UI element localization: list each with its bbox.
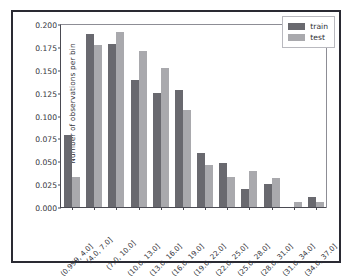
bar-train <box>86 34 94 207</box>
y-tick-label: 0.150 <box>35 66 57 75</box>
x-tick-mark <box>161 207 162 210</box>
y-tick-label: 0.025 <box>35 181 57 190</box>
bar-test <box>116 32 124 207</box>
legend-swatch-test <box>288 34 305 41</box>
bar-test <box>249 171 257 207</box>
bar-train <box>241 189 249 207</box>
legend-label: test <box>310 32 325 43</box>
x-tick-mark <box>72 207 73 210</box>
legend-item-test[interactable]: test <box>288 32 328 43</box>
x-tick-mark <box>316 207 317 210</box>
bar-test <box>94 45 102 207</box>
y-tick-label: 0.000 <box>35 204 57 213</box>
y-tick-label: 0.100 <box>35 112 57 121</box>
bar-train <box>153 93 161 207</box>
figure-frame: Number of observations per bin 0.0000.02… <box>11 10 341 263</box>
bar-test <box>294 202 302 207</box>
axes-right-spine <box>326 24 327 208</box>
bar-train <box>131 80 139 207</box>
y-tick-label: 0.050 <box>35 158 57 167</box>
x-tick-mark <box>139 207 140 210</box>
y-tick-label: 0.175 <box>35 43 57 52</box>
bar-test <box>183 110 191 207</box>
x-tick-mark <box>183 207 184 210</box>
x-tick-mark <box>94 207 95 210</box>
x-tick-mark <box>249 207 250 210</box>
bar-test <box>139 51 147 207</box>
chart-axes: Number of observations per bin 0.0000.02… <box>60 25 326 208</box>
y-tick-label: 0.075 <box>35 135 57 144</box>
bar-train <box>108 44 116 207</box>
y-tick-mark <box>58 116 61 117</box>
x-tick-mark <box>116 207 117 210</box>
bar-train <box>175 90 183 207</box>
bar-test <box>316 202 324 207</box>
y-tick-mark <box>58 47 61 48</box>
x-tick-mark <box>294 207 295 210</box>
bar-train <box>64 135 72 207</box>
legend-label: train <box>310 21 328 32</box>
y-tick-mark <box>58 208 61 209</box>
bar-test <box>227 177 235 207</box>
y-tick-mark <box>58 93 61 94</box>
y-tick-mark <box>58 70 61 71</box>
x-tick-mark <box>205 207 206 210</box>
bar-test <box>161 68 169 207</box>
bar-train <box>264 184 272 207</box>
y-tick-mark <box>58 162 61 163</box>
bar-test <box>272 178 280 207</box>
bar-test <box>72 177 80 207</box>
x-tick-mark <box>227 207 228 210</box>
y-tick-mark <box>58 139 61 140</box>
y-tick-mark <box>58 25 61 26</box>
chart-plot-area: Number of observations per bin 0.0000.02… <box>13 12 339 261</box>
bar-train <box>197 153 205 207</box>
chart-legend: traintest <box>282 16 335 48</box>
legend-item-train[interactable]: train <box>288 21 328 32</box>
bar-train <box>308 197 316 207</box>
y-tick-mark <box>58 185 61 186</box>
bar-test <box>205 165 213 207</box>
legend-swatch-train <box>288 23 305 30</box>
bar-train <box>219 163 227 207</box>
y-tick-label: 0.200 <box>35 21 57 30</box>
x-tick-mark <box>272 207 273 210</box>
y-tick-label: 0.125 <box>35 89 57 98</box>
